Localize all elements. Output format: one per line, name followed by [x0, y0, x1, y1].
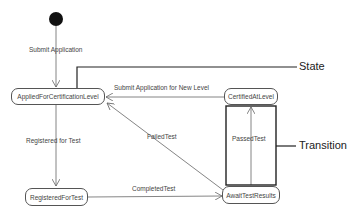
- label-passed-test: PassedTest: [232, 136, 266, 143]
- label-submit-new-level: Submit Application for New Level: [114, 85, 209, 92]
- state-registered-for-test[interactable]: RegisteredForTest: [25, 188, 88, 206]
- state-applied-for-certification-level[interactable]: AppliedForCertificationLevel: [11, 88, 105, 105]
- initial-node-icon: [49, 12, 63, 26]
- label-submit-application: Submit Application: [29, 47, 82, 54]
- label-completed-test: CompletedTest: [132, 186, 175, 193]
- state-await-test-results[interactable]: AwaitTestResults: [222, 186, 280, 204]
- diagram-canvas: [0, 0, 350, 217]
- label-registered-for-test: Registered for Test: [26, 138, 80, 145]
- callout-state: State: [299, 61, 325, 72]
- state-certified-at-level[interactable]: CertifiedAtLevel: [224, 88, 278, 105]
- transition-failed-test: [107, 103, 223, 190]
- transition-completed-test: [88, 196, 222, 197]
- label-failed-test: FailedTest: [147, 134, 177, 141]
- callout-transition: Transition: [299, 140, 347, 151]
